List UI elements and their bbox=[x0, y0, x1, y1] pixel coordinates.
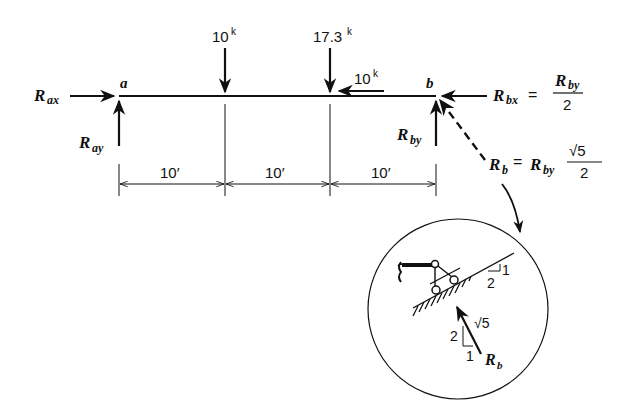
svg-text:R: R bbox=[33, 86, 45, 105]
reaction-rbx: R bx = R by 2 bbox=[442, 71, 583, 113]
svg-text:ax: ax bbox=[47, 93, 59, 107]
support-detail: 1 2 2 1 √5 R b bbox=[368, 219, 548, 399]
svg-text:R: R bbox=[488, 155, 500, 174]
svg-text:2: 2 bbox=[563, 96, 571, 113]
load-17-3k-down: 17.3 k bbox=[313, 26, 353, 92]
svg-text:1: 1 bbox=[466, 348, 474, 364]
svg-text:R: R bbox=[396, 125, 408, 144]
svg-text:R: R bbox=[78, 133, 90, 152]
svg-text:k: k bbox=[231, 26, 237, 37]
svg-text:10: 10 bbox=[354, 70, 371, 87]
reaction-ray: R ay bbox=[78, 101, 119, 155]
svg-text:b: b bbox=[497, 359, 503, 371]
svg-text:b: b bbox=[502, 163, 508, 177]
load-10k-left: 10 k bbox=[339, 68, 384, 91]
reaction-rb-dashed: R b = R by √5 2 bbox=[440, 100, 602, 181]
svg-text:2: 2 bbox=[450, 328, 458, 344]
detail-leader-arrow bbox=[502, 184, 520, 232]
svg-text:=: = bbox=[513, 153, 522, 170]
span-label-2: 10′ bbox=[265, 164, 285, 181]
svg-text:ay: ay bbox=[92, 141, 104, 155]
svg-text:R: R bbox=[529, 155, 541, 174]
load-10k-down: 10 k bbox=[212, 26, 237, 92]
svg-text:k: k bbox=[373, 68, 379, 79]
reaction-rax: R ax bbox=[33, 86, 114, 107]
beam-free-body-diagram: a b R ax R ay 10 k 17.3 k 10 k R bx = R … bbox=[0, 0, 630, 419]
svg-text:by: by bbox=[543, 163, 555, 177]
point-a-label: a bbox=[120, 75, 128, 91]
span-label-3: 10′ bbox=[371, 164, 391, 181]
svg-text:2: 2 bbox=[580, 164, 588, 181]
svg-text:R: R bbox=[554, 71, 566, 90]
reaction-rby: R by bbox=[396, 101, 436, 147]
svg-text:√5: √5 bbox=[474, 315, 490, 331]
svg-text:R: R bbox=[492, 86, 504, 105]
svg-text:=: = bbox=[528, 86, 537, 103]
svg-text:by: by bbox=[568, 78, 580, 92]
svg-text:1: 1 bbox=[502, 262, 510, 278]
span-label-1: 10′ bbox=[160, 164, 180, 181]
point-b-label: b bbox=[426, 75, 434, 91]
svg-text:by: by bbox=[410, 133, 422, 147]
svg-text:17.3: 17.3 bbox=[313, 28, 342, 45]
svg-text:√5: √5 bbox=[569, 142, 586, 159]
extension-lines bbox=[119, 104, 436, 196]
svg-text:2: 2 bbox=[487, 275, 495, 291]
svg-text:k: k bbox=[347, 26, 353, 37]
svg-text:10: 10 bbox=[212, 28, 229, 45]
svg-text:R: R bbox=[484, 351, 496, 368]
svg-text:bx: bx bbox=[506, 93, 518, 107]
